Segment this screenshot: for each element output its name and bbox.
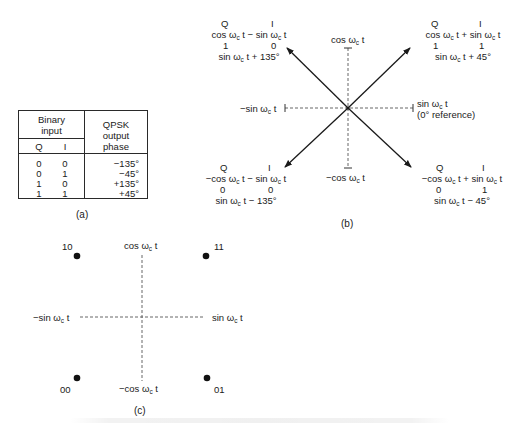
- label-text: t: [271, 103, 276, 114]
- axis-label-sin-reference: sin ωc t (0° reference): [417, 98, 475, 120]
- constellation-axis-label-cos: cos ωc t: [124, 240, 157, 251]
- i-bit: 0: [268, 184, 273, 195]
- q-label: Q: [431, 18, 438, 29]
- phasor-block-upper-left: Q I cos ωc t − sin ωc t 1 0 sin ωc t + 1…: [201, 18, 297, 62]
- phasor-arrow-minus-135: [285, 108, 348, 167]
- label-text: −sin ω: [240, 103, 268, 114]
- phasor-block-lower-left: Q I −cos ωc t − sin ωc t 0 0 sin ωc t − …: [196, 162, 296, 206]
- q-bit: 0: [436, 184, 441, 195]
- phasor-result: sin ωc t + 45°: [415, 51, 508, 62]
- q-label: Q: [436, 162, 443, 173]
- q-bit: 1: [223, 40, 228, 51]
- phasor-expression: −cos ωc t − sin ωc t: [196, 173, 296, 184]
- phasor-result: sin ωc t − 45°: [412, 195, 508, 206]
- label-text: t: [360, 172, 365, 183]
- phasor-block-lower-right: Q I −cos ωc t + sin ωc t 0 1 sin ωc t − …: [412, 162, 508, 206]
- phasor-result: sin ωc t + 135°: [201, 51, 297, 62]
- q-bit: 1: [433, 40, 438, 51]
- reference-note: (0° reference): [417, 109, 475, 120]
- constellation-point-11: [203, 253, 210, 260]
- phasor-expression: cos ωc t + sin ωc t: [415, 29, 508, 40]
- origin-dot: [346, 106, 349, 109]
- q-bit: 0: [220, 184, 225, 195]
- point-label-10: 10: [62, 241, 73, 252]
- constellation-point-00: [74, 375, 81, 382]
- axis-label-cos: cos ωc t: [331, 34, 364, 45]
- axis-label-minus-sin: −sin ωc t: [240, 103, 276, 114]
- i-bit: 1: [479, 40, 484, 51]
- constellation-axis-label-minus-cos: −cos ωc t: [119, 383, 158, 394]
- phasor-block-upper-right: Q I cos ωc t + sin ωc t 1 1 sin ωc t + 4…: [415, 18, 508, 62]
- i-label: I: [268, 162, 271, 173]
- i-label: I: [271, 18, 274, 29]
- caption-c: (c): [134, 405, 146, 416]
- label-text: −cos ω: [326, 172, 356, 183]
- diagram-line-art: [0, 0, 508, 428]
- caption-b: (b): [341, 218, 353, 229]
- point-label-01: 01: [214, 384, 225, 395]
- constellation-diagram: [74, 253, 211, 382]
- axis-label-minus-cos: −cos ωc t: [326, 172, 365, 183]
- i-label: I: [479, 18, 482, 29]
- label-text: sin ω: [417, 98, 439, 109]
- constellation-point-10: [74, 253, 81, 260]
- phasor-expression: −cos ωc t + sin ωc t: [412, 173, 508, 184]
- q-label: Q: [220, 162, 227, 173]
- label-text: cos ω: [331, 34, 356, 45]
- label-text: t: [442, 98, 447, 109]
- i-label: I: [482, 162, 485, 173]
- i-bit: 0: [271, 40, 276, 51]
- phasor-arrow-45: [348, 48, 410, 108]
- point-label-11: 11: [214, 241, 224, 252]
- constellation-axis-label-sin: sin ωc t: [212, 312, 243, 323]
- i-bit: 1: [482, 184, 487, 195]
- point-label-00: 00: [60, 384, 71, 395]
- phasor-result: sin ωc t − 135°: [196, 195, 296, 206]
- constellation-axis-label-minus-sin: −sin ωc t: [33, 312, 69, 323]
- label-text: t: [359, 34, 364, 45]
- constellation-point-01: [204, 375, 211, 382]
- phasor-arrow-minus-45: [348, 108, 411, 167]
- phasor-diagram: [285, 48, 413, 168]
- q-label: Q: [221, 18, 228, 29]
- phasor-expression: cos ωc t − sin ωc t: [201, 29, 297, 40]
- faint-bleed-through-caption: [70, 418, 450, 423]
